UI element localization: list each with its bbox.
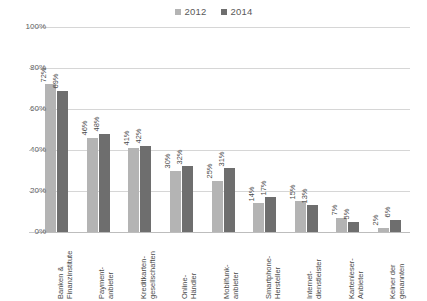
bar-value-label: 13%	[301, 188, 309, 203]
bar-group: 72%69%	[36, 27, 78, 232]
bar-group: 14%17%	[244, 27, 286, 232]
bar-2014[interactable]	[57, 91, 68, 232]
category-label: Smartphone- Hersteller	[265, 236, 283, 299]
bar-value-label: 5%	[343, 209, 351, 220]
category-label: Payment- anbieter	[98, 236, 116, 299]
category-label: Banken & Finanzinstitute	[57, 236, 75, 299]
bar-2014[interactable]	[99, 134, 110, 232]
bar-value-label: 14%	[248, 186, 256, 201]
category-label: Internet- dienstleister	[306, 236, 324, 299]
bar-wrapper: 48%	[99, 27, 110, 232]
bar-wrapper: 30%	[170, 27, 181, 232]
legend-swatch-2014	[221, 9, 227, 15]
bar-value-label: 6%	[384, 207, 392, 218]
y-axis-tick-label: 0%	[34, 228, 46, 236]
bar-2012[interactable]	[378, 228, 389, 232]
y-axis-tick-mark	[29, 27, 35, 28]
category-label: Mobilfunk- anbieter	[223, 236, 241, 299]
bar-2012[interactable]	[45, 84, 56, 232]
bar-wrapper: 5%	[348, 27, 359, 232]
bar-2012[interactable]	[87, 138, 98, 232]
bar-wrapper: 25%	[212, 27, 223, 232]
bar-value-label: 48%	[93, 117, 101, 132]
legend-item-2012: 2012	[175, 7, 207, 17]
bar-group: 41%42%	[119, 27, 161, 232]
bar-value-label: 2%	[372, 215, 380, 226]
category-label: Keiner der genannten	[389, 236, 407, 299]
gridline	[36, 232, 410, 233]
bar-value-label: 41%	[123, 131, 131, 146]
bar-wrapper: 31%	[224, 27, 235, 232]
bar-2014[interactable]	[140, 146, 151, 232]
bar-2014[interactable]	[224, 168, 235, 232]
bar-value-label: 32%	[176, 149, 184, 164]
bar-group: 46%48%	[78, 27, 120, 232]
bar-value-label: 42%	[135, 129, 143, 144]
bar-2014[interactable]	[348, 222, 359, 232]
category-tick: Smartphone- Hersteller	[244, 236, 286, 301]
bar-wrapper: 7%	[336, 27, 347, 232]
bar-value-label: 25%	[206, 164, 214, 179]
bar-group: 30%32%	[161, 27, 203, 232]
bar-2012[interactable]	[212, 181, 223, 232]
category-label: Kartenleser- Anbieter	[348, 236, 366, 299]
bar-2012[interactable]	[128, 148, 139, 232]
bar-group: 7%5%	[327, 27, 369, 232]
plot-area: 72%69%46%48%41%42%30%32%25%31%14%17%15%1…	[36, 27, 410, 232]
category-tick: Kartenleser- Anbieter	[327, 236, 369, 301]
bar-2014[interactable]	[390, 220, 401, 232]
category-tick: Payment- anbieter	[78, 236, 120, 301]
category-label: Online- Händler	[181, 236, 199, 299]
bar-wrapper: 72%	[45, 27, 56, 232]
bar-wrapper: 14%	[253, 27, 264, 232]
bar-value-label: 30%	[164, 153, 172, 168]
bar-2012[interactable]	[253, 203, 264, 232]
bar-2012[interactable]	[295, 201, 306, 232]
bar-wrapper: 69%	[57, 27, 68, 232]
bar-group: 2%6%	[369, 27, 411, 232]
bar-2014[interactable]	[265, 197, 276, 232]
y-axis-tick-mark	[29, 150, 35, 151]
y-axis-tick-mark	[29, 68, 35, 69]
bar-wrapper: 13%	[307, 27, 318, 232]
category-tick: Keiner der genannten	[369, 236, 411, 301]
bar-wrapper: 42%	[140, 27, 151, 232]
bar-2012[interactable]	[170, 171, 181, 233]
y-axis-tick-mark	[29, 109, 35, 110]
bar-wrapper: 17%	[265, 27, 276, 232]
bar-chart: 2012 2014 72%69%46%48%41%42%30%32%25%31%…	[0, 0, 427, 301]
category-tick: Banken & Finanzinstitute	[36, 236, 78, 301]
bar-value-label: 17%	[260, 180, 268, 195]
bar-group: 25%31%	[202, 27, 244, 232]
category-tick: Kreditkarten- gesellschaften	[119, 236, 161, 301]
bar-2014[interactable]	[182, 166, 193, 232]
bar-value-label: 69%	[52, 74, 60, 89]
bar-wrapper: 6%	[390, 27, 401, 232]
bar-value-label: 31%	[218, 151, 226, 166]
legend-item-2014: 2014	[221, 7, 253, 17]
y-axis-tick-mark	[29, 232, 35, 233]
category-tick: Online- Händler	[161, 236, 203, 301]
chart-legend: 2012 2014	[0, 7, 427, 17]
bar-value-label: 7%	[331, 205, 339, 216]
legend-label-2012: 2012	[185, 7, 207, 17]
category-axis: Banken & FinanzinstitutePayment- anbiete…	[36, 236, 410, 301]
legend-swatch-2012	[175, 9, 181, 15]
bar-wrapper: 2%	[378, 27, 389, 232]
bar-groups: 72%69%46%48%41%42%30%32%25%31%14%17%15%1…	[36, 27, 410, 232]
bar-2012[interactable]	[336, 218, 347, 232]
bar-value-label: 15%	[289, 184, 297, 199]
bar-group: 15%13%	[285, 27, 327, 232]
bar-value-label: 46%	[81, 121, 89, 136]
bar-wrapper: 32%	[182, 27, 193, 232]
category-tick: Internet- dienstleister	[285, 236, 327, 301]
y-axis-tick-mark	[29, 191, 35, 192]
category-tick: Mobilfunk- anbieter	[202, 236, 244, 301]
legend-label-2014: 2014	[231, 7, 253, 17]
bar-2014[interactable]	[307, 205, 318, 232]
category-label: Kreditkarten- gesellschaften	[140, 236, 158, 299]
